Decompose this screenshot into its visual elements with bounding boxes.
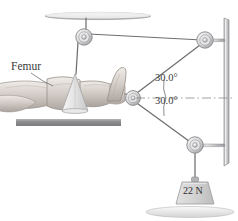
traction-apparatus-figure: Femur 30.0° 30.0° 22 N: [0, 0, 238, 221]
upper-right-pulley: [197, 32, 225, 48]
top-pulley: [76, 29, 92, 45]
lower-right-pulley: [187, 137, 225, 153]
ceiling-support-bar: [45, 12, 151, 20]
floor-base: [146, 207, 234, 218]
femur-label: Femur: [11, 61, 41, 73]
bed-surface-bar: [16, 119, 121, 126]
angle-upper-label: 30.0°: [155, 73, 178, 84]
weight-value-label: 22 N: [183, 186, 203, 196]
angle-lower-label: 30.0°: [155, 96, 178, 107]
patient-leg: [0, 77, 125, 112]
